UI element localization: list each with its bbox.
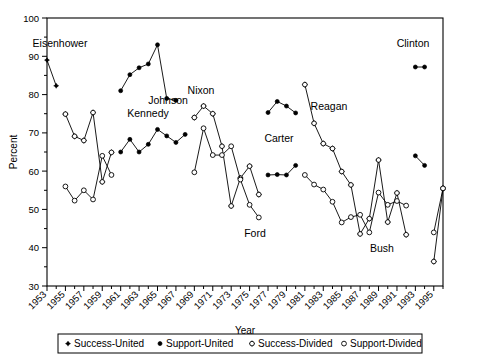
y-tick-labels: 100 90 80 70 60 50 40 30 (23, 13, 39, 292)
x-tick-label: 1959 (81, 289, 104, 312)
x-tick-label: 1965 (136, 289, 159, 312)
y-tick-label: 50 (28, 204, 39, 215)
x-tick-labels: 1953195519571959196119631965196719691971… (26, 289, 436, 312)
legend-support-united-label: Support-United (166, 338, 233, 349)
legend-support-united[interactable]: Support-United (158, 338, 233, 349)
annotation-johnson: Johnson (148, 94, 188, 106)
legend-success-united[interactable]: Success-United (65, 338, 144, 349)
y-axis-label: Percent (8, 135, 19, 170)
x-tick-label: 1979 (265, 289, 288, 312)
y-axis-ticks (42, 18, 47, 286)
figure-container: 100 90 80 70 60 50 40 30 Percent 1953195… (0, 0, 480, 364)
y-tick-label: 40 (28, 242, 39, 253)
y-tick-label: 30 (28, 281, 39, 292)
legend-success-divided-label: Success-Divided (258, 338, 332, 349)
legend-support-divided-label: Support-Divided (350, 338, 422, 349)
annotation-kennedy: Kennedy (127, 107, 169, 119)
x-tick-label: 1963 (118, 289, 141, 312)
y-tick-label: 80 (28, 89, 39, 100)
x-tick-label: 1985 (320, 289, 343, 312)
legend-support-divided[interactable]: Support-Divided (342, 338, 422, 349)
x-tick-label: 1975 (228, 289, 251, 312)
x-tick-label: 1961 (99, 289, 122, 312)
x-tick-label: 1973 (210, 289, 233, 312)
chart-legend: Success-UnitedSupport-UnitedSuccess-Divi… (58, 334, 422, 353)
x-tick-label: 1987 (339, 289, 362, 312)
x-tick-label: 1953 (26, 289, 49, 312)
annotation-bush: Bush (370, 242, 394, 254)
x-tick-label: 1991 (376, 289, 399, 312)
y-tick-label: 100 (23, 13, 39, 24)
x-tick-label: 1957 (63, 289, 86, 312)
annotation-ford: Ford (244, 227, 266, 239)
annotation-carter: Carter (264, 132, 294, 144)
x-tick-label: 1969 (173, 289, 196, 312)
x-tick-label: 1955 (44, 289, 67, 312)
y-tick-label: 60 (28, 166, 39, 177)
x-axis-ticks (47, 286, 443, 291)
x-tick-label: 1995 (412, 289, 435, 312)
line-chart: 100 90 80 70 60 50 40 30 Percent 1953195… (0, 0, 480, 364)
x-tick-label: 1989 (357, 289, 380, 312)
x-tick-label: 1981 (284, 289, 307, 312)
annotation-eisenhower: Eisenhower (33, 37, 88, 49)
legend-success-divided[interactable]: Success-Divided (249, 338, 332, 349)
x-tick-label: 1983 (302, 289, 325, 312)
annotation-nixon: Nixon (188, 84, 215, 96)
x-tick-label: 1993 (394, 289, 417, 312)
legend-success-united-label: Success-United (74, 338, 144, 349)
x-tick-label: 1977 (247, 289, 270, 312)
x-tick-label: 1967 (155, 289, 178, 312)
y-tick-label: 70 (28, 127, 39, 138)
x-tick-label: 1971 (191, 289, 214, 312)
annotation-reagan: Reagan (311, 100, 348, 112)
annotation-clinton: Clinton (397, 37, 430, 49)
y-tick-label: 90 (28, 51, 39, 62)
